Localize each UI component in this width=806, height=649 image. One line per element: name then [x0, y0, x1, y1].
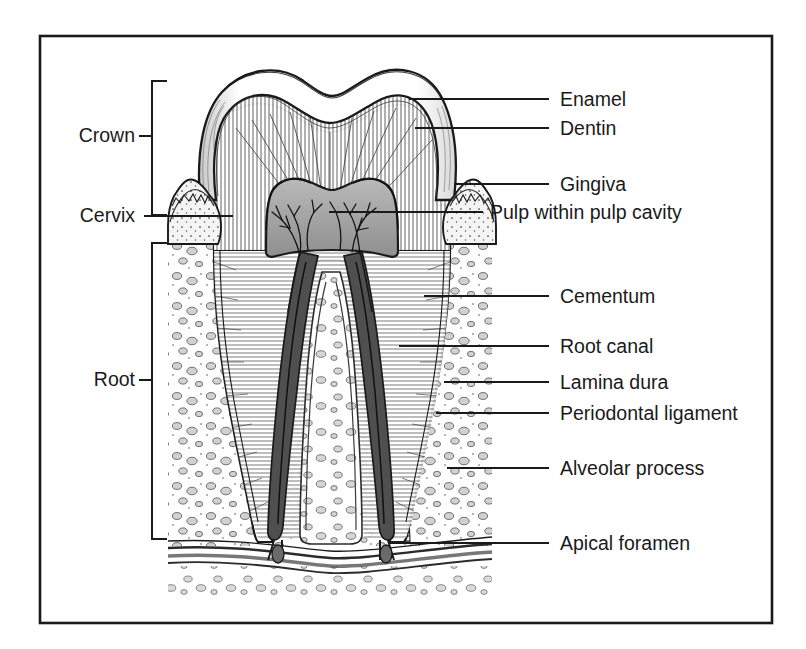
label-periodontal-ligament: Periodontal ligament — [560, 402, 738, 424]
figure-canvas: CrownCervixRoot EnamelDentinGingivaPulp … — [0, 0, 806, 649]
tooth-anatomy-diagram: CrownCervixRoot EnamelDentinGingivaPulp … — [0, 0, 806, 649]
label-cementum: Cementum — [560, 285, 655, 307]
label-gingiva: Gingiva — [560, 173, 626, 195]
label-apical-foramen: Apical foramen — [560, 532, 690, 554]
label-dentin: Dentin — [560, 117, 616, 139]
right-label-group: EnamelDentinGingivaPulp within pulp cavi… — [490, 88, 738, 554]
left-label-group: CrownCervixRoot — [79, 124, 136, 390]
pulp-chamber-region — [266, 179, 398, 257]
bracket-crown — [152, 81, 166, 215]
label-cervix: Cervix — [80, 204, 136, 226]
label-pulp-within-pulp-cavity: Pulp within pulp cavity — [490, 201, 682, 223]
label-crown: Crown — [79, 124, 135, 146]
bracket-root — [152, 243, 166, 539]
label-root: Root — [94, 368, 136, 390]
label-enamel: Enamel — [560, 88, 626, 110]
label-root-canal: Root canal — [560, 335, 653, 357]
label-lamina-dura: Lamina dura — [560, 371, 669, 393]
label-alveolar-process: Alveolar process — [560, 457, 704, 479]
